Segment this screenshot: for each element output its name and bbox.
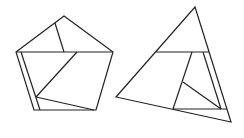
triangle-cut-line	[183, 82, 221, 109]
triangle-cut-line	[173, 52, 192, 109]
triangle-cut-lines	[156, 52, 227, 109]
pentagon-dissection	[16, 16, 113, 110]
pentagon-cut-line	[36, 97, 94, 110]
triangle-outline	[116, 7, 231, 122]
pentagon-cut-line	[36, 52, 77, 97]
pentagon-cut-line	[55, 23, 64, 52]
diagram-canvas	[0, 0, 244, 138]
pentagon-cut-line	[21, 52, 40, 110]
pentagon-outline	[16, 16, 113, 110]
triangle-dissection	[116, 7, 231, 122]
